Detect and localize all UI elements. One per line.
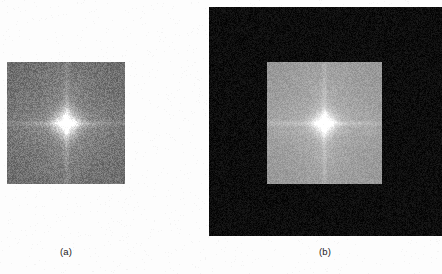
spectrum-canvas-b bbox=[209, 7, 442, 236]
spectrum-image-a bbox=[7, 62, 125, 184]
panel-b-caption: (b) bbox=[295, 246, 355, 258]
spectrum-canvas-a bbox=[7, 62, 125, 184]
panel-a-caption: (a) bbox=[36, 246, 96, 258]
spectrum-image-b bbox=[209, 7, 442, 236]
figure-root: (a) (b) bbox=[0, 0, 442, 274]
